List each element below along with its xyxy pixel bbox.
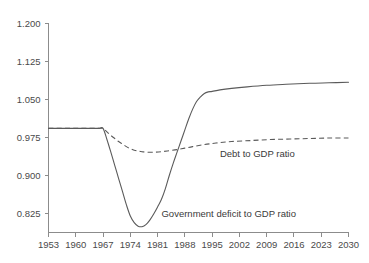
x-tick-label: 2030 [338, 239, 359, 250]
debt-to-gdp-ratio-label: Debt to GDP ratio [220, 148, 295, 159]
x-tick-label: 2009 [256, 239, 277, 250]
x-tick-label: 1981 [147, 239, 168, 250]
y-tick-label: 0.975 [17, 132, 41, 143]
x-tick-label: 2023 [311, 239, 332, 250]
y-tick-label: 1.050 [17, 94, 41, 105]
y-tick-label: 1.200 [17, 18, 41, 29]
x-tick-label: 1967 [92, 239, 113, 250]
x-tick-label: 1995 [202, 239, 223, 250]
y-tick-label: 1.125 [17, 56, 41, 67]
series-annotations: Government deficit to GDP ratioDebt to G… [161, 148, 295, 219]
government-deficit-to-gdp-ratio-label: Government deficit to GDP ratio [161, 208, 295, 219]
y-tick-label: 0.825 [17, 208, 41, 219]
x-tick-label: 2016 [283, 239, 304, 250]
line-chart: 0.8250.9000.9751.0501.1251.200 195319601… [0, 0, 369, 263]
series-line-government-deficit-to-gdp-ratio [49, 82, 349, 227]
chart-container: 0.8250.9000.9751.0501.1251.200 195319601… [0, 0, 369, 263]
x-tick-label: 1960 [65, 239, 86, 250]
x-tick-label: 1974 [120, 239, 141, 250]
y-axis-ticks: 0.8250.9000.9751.0501.1251.200 [17, 18, 49, 219]
y-tick-label: 0.900 [17, 170, 41, 181]
x-axis-ticks: 1953196019671974198119881995200220092016… [38, 233, 359, 250]
x-tick-label: 2002 [229, 239, 250, 250]
series-line-debt-to-gdp-ratio [49, 128, 349, 152]
x-tick-label: 1953 [38, 239, 59, 250]
x-tick-label: 1988 [174, 239, 195, 250]
